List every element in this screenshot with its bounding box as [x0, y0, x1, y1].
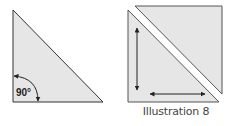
split-square: [128, 6, 222, 102]
angle-label: 90°: [16, 87, 31, 98]
figure-caption: Illustration 8: [128, 105, 224, 118]
